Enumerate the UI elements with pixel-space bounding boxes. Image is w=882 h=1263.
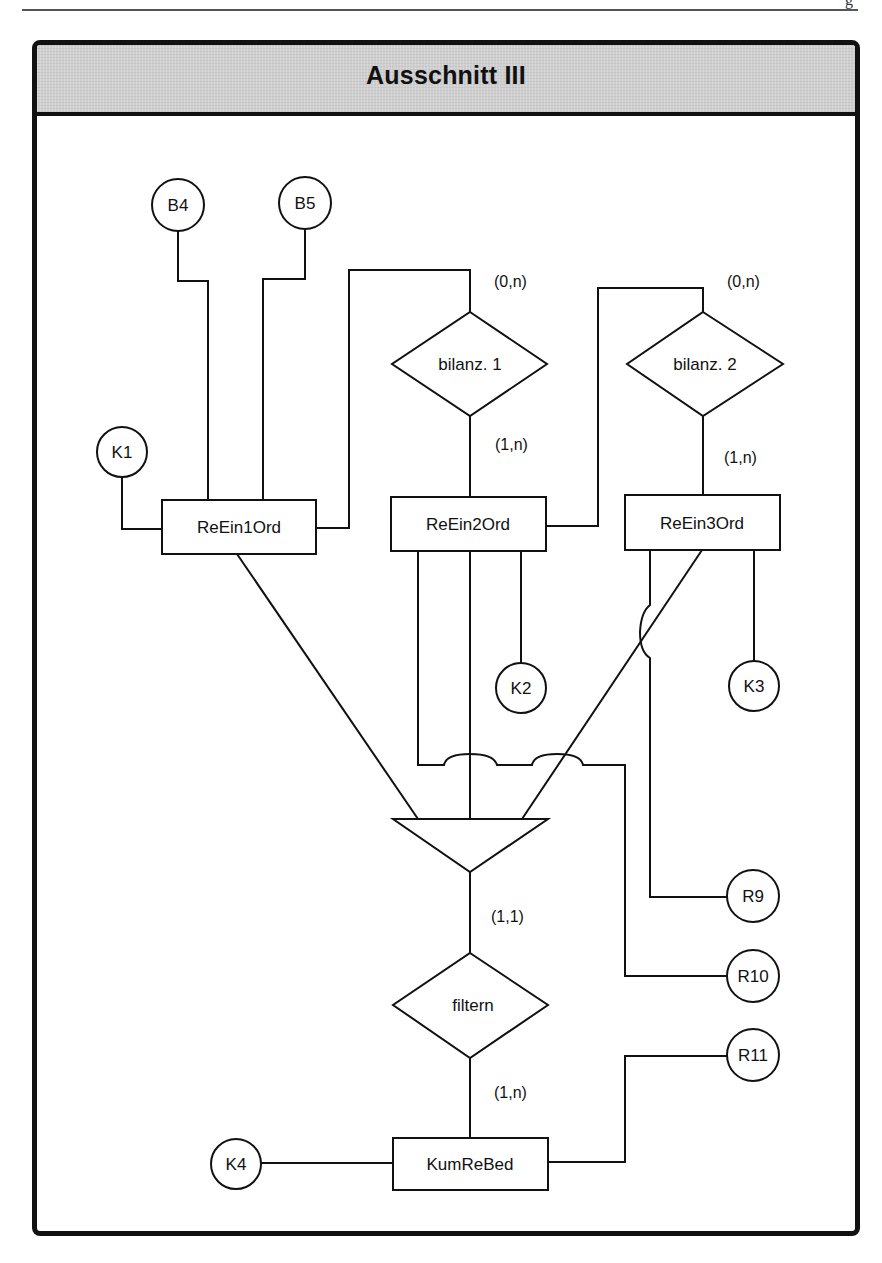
- entity-label: ReEin3Ord: [660, 514, 744, 533]
- attribute-k2[interactable]: K2: [496, 663, 546, 713]
- relationship-filtern[interactable]: filtern: [393, 953, 548, 1058]
- cardinality-generalization: (1,1): [491, 908, 524, 925]
- connector-reein2-r10: [418, 551, 727, 976]
- er-diagram: B4 B5 K1 K2 K3 K4 R9 R10 R11 ReEin1Ord R…: [0, 0, 882, 1263]
- cardinality-bilanz2-bottom: (1,n): [724, 449, 757, 466]
- cardinality-bilanz1-top: (0,n): [494, 273, 527, 290]
- attribute-label: B5: [295, 194, 316, 213]
- attribute-k3[interactable]: K3: [729, 661, 779, 711]
- relationship-label: filtern: [452, 996, 494, 1015]
- attribute-label: R11: [738, 1046, 768, 1065]
- connector-reein3-generalization: [522, 550, 702, 819]
- entity-reein3ord[interactable]: ReEin3Ord: [625, 495, 780, 550]
- attribute-label: K2: [511, 679, 532, 698]
- attribute-label: K3: [744, 677, 765, 696]
- attribute-r10[interactable]: R10: [727, 950, 779, 1002]
- connector-reein3-r9: [640, 550, 727, 897]
- entity-kumrebed[interactable]: KumReBed: [393, 1138, 548, 1190]
- attribute-label: R9: [742, 887, 764, 906]
- entity-label: ReEin2Ord: [426, 515, 510, 534]
- relationship-label: bilanz. 1: [438, 355, 501, 374]
- attribute-label: K4: [226, 1155, 247, 1174]
- relationship-bilanz2[interactable]: bilanz. 2: [627, 312, 783, 416]
- entity-label: KumReBed: [427, 1155, 514, 1174]
- cardinality-filtern-bottom: (1,n): [494, 1084, 527, 1101]
- attribute-label: R10: [737, 967, 768, 986]
- connector-kumrebed-r11: [548, 1056, 727, 1162]
- relationship-label: bilanz. 2: [673, 355, 736, 374]
- connector-reein1-generalization: [237, 554, 418, 819]
- attribute-label: K1: [112, 443, 133, 462]
- attribute-b4[interactable]: B4: [152, 179, 204, 231]
- attribute-k4[interactable]: K4: [211, 1139, 261, 1189]
- connector-b5: [263, 229, 305, 500]
- attribute-r9[interactable]: R9: [727, 870, 779, 922]
- entity-reein2ord[interactable]: ReEin2Ord: [391, 497, 546, 551]
- entity-reein1ord[interactable]: ReEin1Ord: [162, 500, 316, 554]
- connector-k1: [122, 477, 162, 529]
- entity-label: ReEin1Ord: [197, 518, 281, 537]
- relationship-bilanz1[interactable]: bilanz. 1: [392, 312, 547, 416]
- attribute-r11[interactable]: R11: [727, 1029, 779, 1081]
- attribute-label: B4: [168, 196, 189, 215]
- cardinality-bilanz1-bottom: (1,n): [495, 436, 528, 453]
- attribute-k1[interactable]: K1: [97, 427, 147, 477]
- connector-b4: [178, 231, 208, 500]
- cardinality-bilanz2-top: (0,n): [727, 273, 760, 290]
- generalization-triangle[interactable]: [393, 819, 548, 872]
- attribute-b5[interactable]: B5: [279, 177, 331, 229]
- connector-reein2-bilanz2: [546, 288, 703, 526]
